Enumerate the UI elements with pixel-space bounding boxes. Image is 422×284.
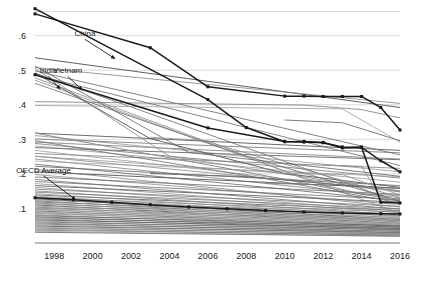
- y-tick-label: .5: [18, 66, 26, 76]
- x-tick-label: 2014: [352, 251, 372, 261]
- series-marker: [341, 145, 344, 148]
- series-marker: [399, 128, 402, 131]
- y-axis-ticklabels: .1.2.3.4.5.6: [18, 31, 26, 214]
- x-tick-label: 2002: [121, 251, 141, 261]
- series-marker: [379, 212, 382, 215]
- series-marker: [34, 7, 37, 10]
- series-marker: [302, 95, 305, 98]
- series-marker: [34, 196, 37, 199]
- y-tick-label: .3: [18, 135, 26, 145]
- annotation-label-china: China: [74, 29, 95, 38]
- series-marker: [206, 98, 209, 101]
- series-marker: [341, 95, 344, 98]
- series-marker: [322, 141, 325, 144]
- series-marker: [379, 159, 382, 162]
- chart-figure: .1.2.3.4.5.6 199820002002200420062008201…: [0, 0, 422, 284]
- series-marker: [360, 146, 363, 149]
- x-tick-label: 2000: [83, 251, 103, 261]
- series-marker: [264, 209, 267, 212]
- series-marker: [187, 206, 190, 209]
- annotation-arrow-vietnam: [68, 76, 82, 90]
- annotation-label-oecd-average: OECD Average: [16, 166, 71, 175]
- series-marker: [34, 73, 37, 76]
- series-marker: [206, 85, 209, 88]
- series-marker: [322, 95, 325, 98]
- x-tick-label: 2008: [236, 251, 256, 261]
- line-chart: .1.2.3.4.5.6 199820002002200420062008201…: [0, 0, 422, 284]
- series-marker: [245, 126, 248, 129]
- series-marker: [360, 95, 363, 98]
- series-marker: [110, 201, 113, 204]
- x-axis-ticklabels: 1998200020022004200620082010201220142016: [44, 251, 410, 261]
- background-line: [150, 174, 400, 189]
- x-tick-label: 2006: [198, 251, 218, 261]
- series-marker: [283, 140, 286, 143]
- series-marker: [399, 212, 402, 215]
- annotation-label-india: India: [40, 66, 58, 75]
- series-marker: [302, 210, 305, 213]
- series-marker: [206, 126, 209, 129]
- series-marker: [226, 207, 229, 210]
- series-marker: [149, 46, 152, 49]
- x-tick-label: 1998: [44, 251, 64, 261]
- x-tick-label: 2004: [159, 251, 179, 261]
- background-line: [285, 120, 400, 141]
- series-marker: [149, 203, 152, 206]
- x-tick-label: 2012: [313, 251, 333, 261]
- series-marker: [341, 211, 344, 214]
- series-marker: [34, 12, 37, 15]
- x-tick-label: 2016: [390, 251, 410, 261]
- series-marker: [379, 201, 382, 204]
- y-tick-label: .1: [18, 204, 26, 214]
- series-marker: [399, 201, 402, 204]
- y-tick-label: .4: [18, 100, 26, 110]
- series-marker: [302, 141, 305, 144]
- series-marker: [379, 106, 382, 109]
- series-marker: [283, 95, 286, 98]
- series-marker: [399, 170, 402, 173]
- background-line: [35, 71, 400, 155]
- annotation-label-vietnam: Vietnam: [53, 66, 83, 75]
- x-tick-label: 2010: [275, 251, 295, 261]
- y-tick-label: .6: [18, 31, 26, 41]
